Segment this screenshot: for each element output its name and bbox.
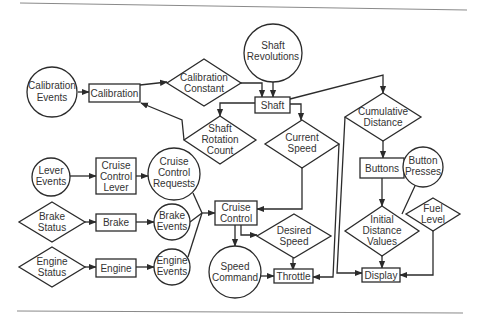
- edge-shaft-rotation-count-to-calibration: [141, 103, 184, 140]
- node-label: Engine: [156, 255, 188, 266]
- node-label: Command: [212, 272, 258, 283]
- node-button-presses: Button Presses: [403, 147, 443, 187]
- node-label: Distance: [364, 117, 403, 128]
- node-label: Throttle: [277, 271, 311, 282]
- node-buttons: Buttons: [360, 158, 404, 178]
- node-label: Values: [367, 236, 397, 247]
- node-label: Rotation: [201, 134, 238, 145]
- node-label: Cumulative: [358, 106, 408, 117]
- node-shaft: Shaft: [255, 97, 290, 113]
- node-label: Presses: [405, 166, 441, 177]
- edge-cumulative-distance-to-display: [337, 117, 362, 273]
- edge-requests-merge: [193, 193, 202, 213]
- node-cumulative-distance: Cumulative Distance: [345, 93, 421, 141]
- node-engine-status: Engine Status: [19, 247, 85, 287]
- node-brake-status: Brake Status: [19, 202, 85, 242]
- node-label: Control: [220, 213, 252, 224]
- node-label: Level: [421, 214, 445, 225]
- node-label: Display: [365, 270, 398, 281]
- node-label: Shaft: [261, 40, 285, 51]
- node-label: Count: [207, 145, 234, 156]
- node-label: Initial: [370, 214, 393, 225]
- node-label: Constant: [184, 83, 224, 94]
- edge-shaft-to-current-speed: [290, 104, 301, 120]
- top-rule: [20, 3, 467, 10]
- node-label: Engine: [100, 263, 132, 274]
- node-shaft-rotation-count: Shaft Rotation Count: [184, 116, 256, 164]
- node-calibration-events: Calibration Events: [27, 67, 77, 117]
- node-label: Speed: [280, 236, 309, 247]
- cruise-control-data-flow-diagram: Calibration Events Calibration Calibrati…: [0, 0, 483, 321]
- node-label: Desired: [277, 225, 311, 236]
- node-label: Fuel: [423, 203, 442, 214]
- edge-cruise-control-to-desired-speed: [241, 225, 257, 235]
- node-calibration: Calibration: [89, 84, 140, 102]
- node-label: Events: [157, 221, 188, 232]
- node-current-speed: Current Speed: [265, 120, 339, 168]
- node-label: Shaft: [208, 123, 232, 134]
- node-label: Calibration: [91, 88, 139, 99]
- node-label: Lever: [103, 182, 129, 193]
- node-fuel-level: Fuel Level: [406, 198, 460, 231]
- node-cruise-control-requests: Cruise Control Requests: [148, 148, 200, 200]
- node-engine-events: Engine Events: [154, 249, 190, 285]
- edge-current-speed-to-cruise-control: [257, 168, 302, 209]
- node-brake-events: Brake Events: [154, 204, 190, 240]
- node-cruise-control: Cruise Control: [215, 201, 257, 225]
- node-calibration-constant: Calibration Constant: [167, 59, 241, 106]
- node-desired-speed: Desired Speed: [257, 214, 331, 258]
- node-label: Requests: [153, 178, 195, 189]
- node-label: Button: [409, 155, 438, 166]
- node-label: Shaft: [261, 100, 285, 111]
- node-brake: Brake: [96, 214, 136, 231]
- node-label: Revolutions: [247, 51, 299, 62]
- node-label: Cruise: [102, 160, 131, 171]
- node-label: Current: [285, 132, 319, 143]
- node-label: Control: [158, 167, 190, 178]
- node-label: Cruise: [160, 156, 189, 167]
- edge-calibration-constant-to-shaft: [241, 83, 262, 97]
- edge-shaft-to-shaft-rotation-count: [220, 103, 255, 116]
- node-throttle: Throttle: [274, 269, 313, 283]
- node-cruise-control-lever: Cruise Control Lever: [96, 158, 136, 194]
- node-label: Status: [38, 267, 66, 278]
- node-label: Speed: [221, 261, 250, 272]
- edge-current-speed-to-throttle: [313, 144, 339, 277]
- node-label: Calibration: [28, 80, 76, 91]
- node-label: Buttons: [365, 163, 399, 174]
- node-speed-command: Speed Command: [209, 246, 261, 298]
- node-label: Speed: [288, 143, 317, 154]
- node-label: Lever: [38, 165, 64, 176]
- node-label: Cruise: [222, 202, 251, 213]
- node-shaft-revolutions: Shaft Revolutions: [244, 24, 302, 82]
- node-label: Distance: [363, 225, 402, 236]
- node-label: Events: [157, 266, 188, 277]
- edge-shaft-to-cumulative-distance: [290, 75, 383, 99]
- node-display: Display: [362, 268, 400, 282]
- node-label: Control: [100, 171, 132, 182]
- node-label: Status: [38, 222, 66, 233]
- node-label: Brake: [159, 210, 186, 221]
- node-label: Brake: [103, 217, 130, 228]
- edge-calibration-to-calibration-constant: [140, 82, 167, 85]
- node-label: Brake: [39, 211, 66, 222]
- node-label: Calibration: [180, 72, 228, 83]
- node-lever-events: Lever Events: [32, 158, 70, 196]
- node-label: Events: [36, 176, 67, 187]
- node-label: Engine: [36, 256, 68, 267]
- node-engine: Engine: [96, 259, 136, 277]
- bottom-rule: [17, 311, 463, 313]
- node-label: Events: [37, 92, 68, 103]
